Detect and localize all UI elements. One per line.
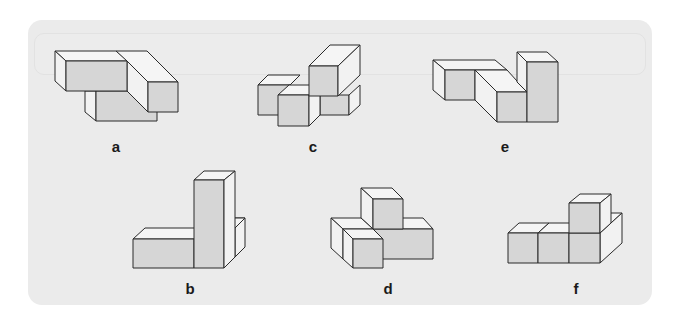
figure-f[interactable] [508,194,622,263]
figure-b[interactable] [133,171,245,268]
figure-label-f: f [574,280,579,297]
figure-label-e: e [501,138,509,155]
figure-e[interactable] [433,52,558,122]
figure-c[interactable] [258,45,360,126]
figure-a[interactable] [55,51,178,121]
figure-label-b: b [185,280,194,297]
figure-label-c: c [309,138,317,155]
figure-d[interactable] [331,188,433,268]
block-figures: .f { fill: #d6d6d6; stroke: #2a2a2a; str… [0,0,683,318]
figure-label-d: d [383,280,392,297]
figure-label-a: a [112,138,120,155]
